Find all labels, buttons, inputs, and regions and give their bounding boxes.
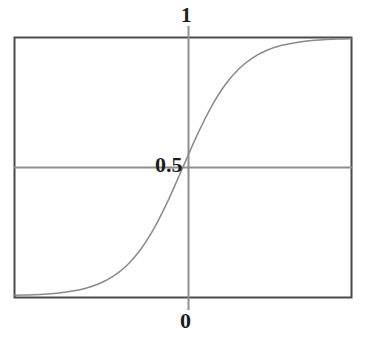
axis-label-bottom: 0	[180, 310, 191, 332]
sigmoid-plot-figure: 1 0.5 0	[0, 0, 365, 344]
axis-label-middle: 0.5	[155, 154, 183, 176]
plot-canvas	[0, 0, 365, 344]
axis-label-top: 1	[181, 5, 192, 26]
